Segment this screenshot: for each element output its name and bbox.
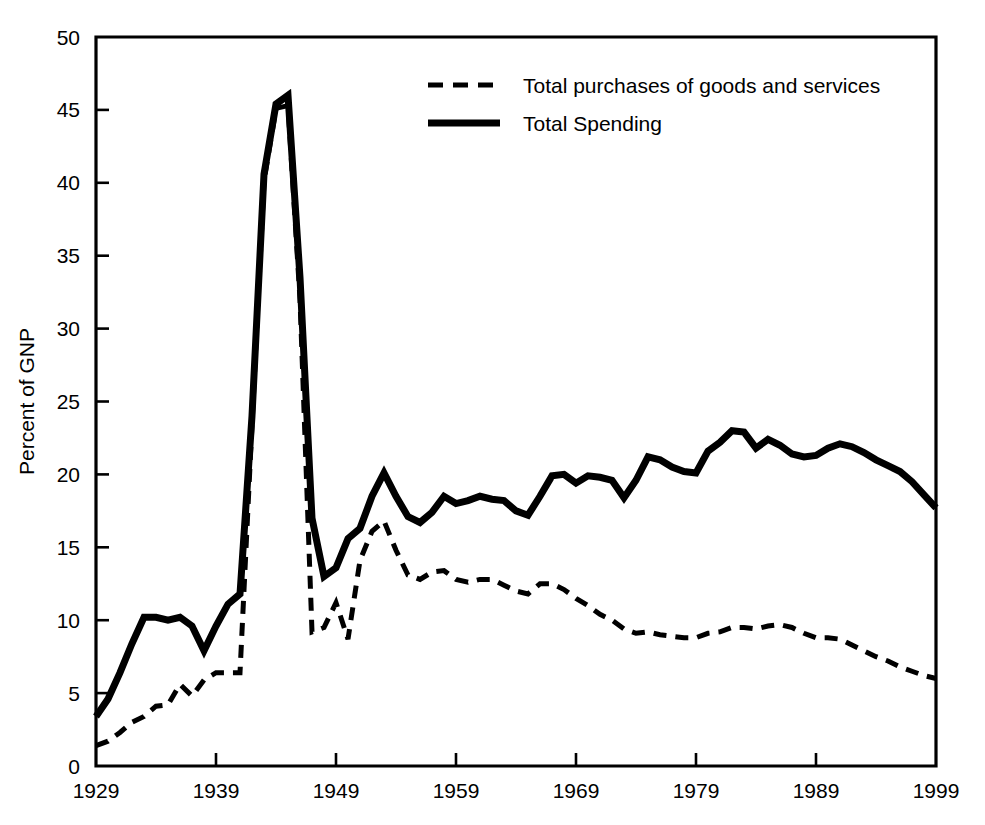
y-axis-tick-label: 0 <box>68 755 80 778</box>
y-axis-tick-label: 40 <box>57 171 80 194</box>
y-axis-tick-label: 25 <box>57 390 80 413</box>
x-axis-tick-label: 1929 <box>73 779 120 802</box>
y-axis-tick-label: 5 <box>68 682 80 705</box>
x-axis-tick-label: 1959 <box>433 779 480 802</box>
x-axis-tick-label: 1969 <box>553 779 600 802</box>
legend-label: Total Spending <box>523 112 662 135</box>
chart-container: 0510152025303540455019291939194919591969… <box>0 0 985 825</box>
y-axis-tick-label: 20 <box>57 463 80 486</box>
legend-label: Total purchases of goods and services <box>523 74 880 97</box>
x-axis-tick-label: 1939 <box>193 779 240 802</box>
x-axis-tick-label: 1949 <box>313 779 360 802</box>
line-chart: 0510152025303540455019291939194919591969… <box>0 0 985 825</box>
y-axis-tick-label: 30 <box>57 317 80 340</box>
y-axis-tick-label: 45 <box>57 98 80 121</box>
series-line-solid <box>96 95 936 716</box>
y-axis-tick-label: 50 <box>57 26 80 49</box>
x-axis-tick-label: 1979 <box>673 779 720 802</box>
y-axis-tick-label: 10 <box>57 609 80 632</box>
series-line-dashed <box>96 106 936 746</box>
y-axis-tick-label: 15 <box>57 536 80 559</box>
y-axis-title: Percent of GNP <box>15 328 38 475</box>
x-axis-tick-label: 1989 <box>793 779 840 802</box>
plot-frame <box>96 37 936 766</box>
y-axis-tick-label: 35 <box>57 244 80 267</box>
x-axis-tick-label: 1999 <box>913 779 960 802</box>
